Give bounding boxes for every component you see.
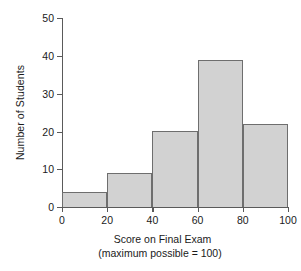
y-tick-label: 30 — [28, 89, 54, 100]
x-tick-label: 40 — [132, 214, 172, 226]
x-tick-label: 80 — [223, 214, 263, 226]
x-tick-mark — [243, 207, 244, 212]
y-tick-label: 10 — [28, 164, 54, 175]
histogram-bar — [152, 131, 197, 207]
histogram-chart: Number of Students 50 40 30 20 10 0 0 20 — [0, 0, 301, 271]
y-tick-label: 20 — [28, 127, 54, 138]
x-tick-label: 0 — [42, 214, 82, 226]
x-tick-mark — [107, 207, 108, 212]
y-tick-label: 40 — [28, 51, 54, 62]
histogram-bar — [62, 192, 107, 207]
x-tick-label: 100 — [268, 214, 301, 226]
plot-area — [62, 18, 288, 207]
y-axis-tick-labels: 50 40 30 20 10 0 — [28, 0, 54, 271]
y-tick-label: 50 — [28, 13, 54, 24]
histogram-bar — [198, 60, 243, 207]
x-axis-subtitle: (maximum possible = 100) — [30, 247, 290, 260]
x-tick-mark — [198, 207, 199, 212]
x-axis-title: Score on Final Exam — [40, 233, 285, 246]
y-tick-label: 0 — [28, 202, 54, 213]
histogram-bar — [107, 173, 152, 207]
x-tick-mark — [288, 207, 289, 212]
x-tick-mark — [152, 207, 153, 212]
histogram-bar — [243, 124, 288, 207]
y-axis-title: Number of Students — [12, 10, 28, 215]
x-tick-label: 60 — [178, 214, 218, 226]
x-tick-mark — [62, 207, 63, 212]
x-axis-line — [62, 207, 289, 208]
x-tick-label: 20 — [87, 214, 127, 226]
